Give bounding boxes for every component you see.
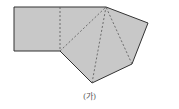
net-outline	[14, 7, 148, 83]
figure-caption: (가)	[0, 90, 179, 101]
